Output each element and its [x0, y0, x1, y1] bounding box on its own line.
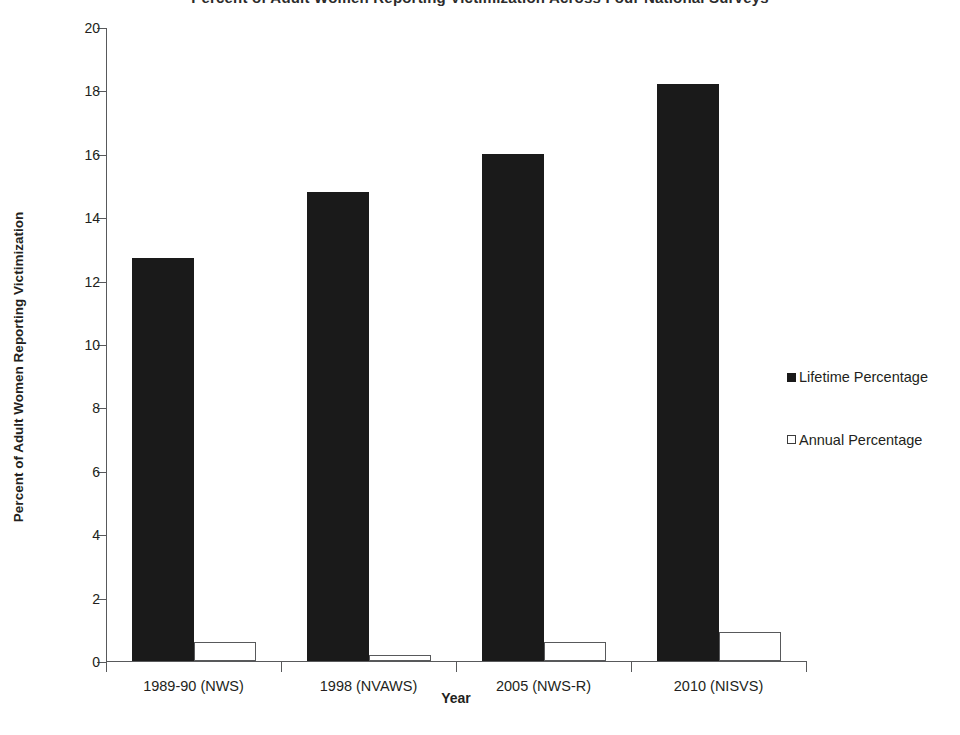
- y-axis-tick-label: 14: [84, 208, 100, 228]
- x-axis-title: Year: [106, 690, 806, 706]
- y-axis-tick-label: 10: [84, 335, 100, 355]
- legend-entry: Lifetime Percentage: [787, 370, 957, 385]
- y-axis-title: Percent of Adult Women Reporting Victimi…: [8, 50, 30, 684]
- bar-lifetime: [482, 154, 544, 661]
- y-axis-tick-label: 18: [84, 81, 100, 101]
- legend-label: Annual Percentage: [799, 433, 922, 448]
- bar-annual: [369, 655, 431, 661]
- y-axis-tick-label: 12: [84, 272, 100, 292]
- plot-area: 20181614121086420 1989-90 (NWS)1998 (NVA…: [106, 28, 806, 662]
- y-axis-tick-label: 0: [92, 652, 100, 672]
- bar-chart-figure: Percent of Adult Women Reporting Victimi…: [0, 0, 960, 735]
- bar-annual: [719, 632, 781, 661]
- x-axis-tick-mark: [806, 661, 807, 672]
- bar-lifetime: [657, 84, 719, 661]
- chart-title: Percent of Adult Women Reporting Victimi…: [0, 0, 960, 6]
- legend-swatch-icon: [787, 373, 796, 382]
- legend-swatch-icon: [787, 435, 796, 444]
- x-axis-tick-mark: [631, 661, 632, 672]
- bar-lifetime: [307, 192, 369, 661]
- bar-annual: [194, 642, 256, 661]
- legend-entry: Annual Percentage: [787, 433, 957, 448]
- y-axis-line: [106, 28, 107, 662]
- x-axis-tick-mark: [456, 661, 457, 672]
- legend-label: Lifetime Percentage: [799, 370, 928, 385]
- x-axis-tick-mark: [106, 661, 107, 672]
- chart-legend: Lifetime PercentageAnnual Percentage: [787, 370, 957, 495]
- y-axis-tick-label: 4: [92, 525, 100, 545]
- y-axis-tick-label: 20: [84, 18, 100, 38]
- bar-lifetime: [132, 258, 194, 661]
- y-axis-tick-label: 8: [92, 398, 100, 418]
- y-axis-tick-label: 16: [84, 145, 100, 165]
- y-axis-tick-label: 2: [92, 589, 100, 609]
- bar-annual: [544, 642, 606, 661]
- y-axis-tick-label: 6: [92, 462, 100, 482]
- x-axis-tick-mark: [281, 661, 282, 672]
